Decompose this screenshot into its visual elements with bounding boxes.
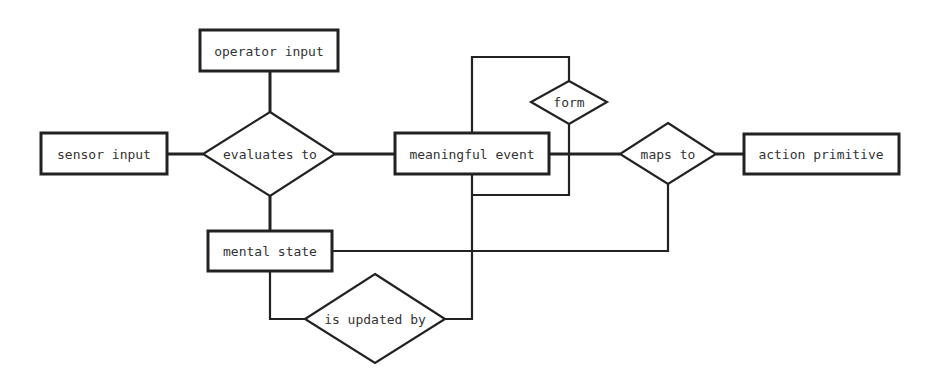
entity-label: mental state: [223, 244, 317, 259]
relationship-maps-to: maps to: [620, 123, 716, 184]
edge-meaningful-updated: [445, 174, 472, 319]
entity-mental-state: mental state: [208, 231, 332, 271]
relationship-label: maps to: [641, 147, 696, 162]
relationship-is-updated-by: is updated by: [305, 274, 445, 363]
connectors: [167, 57, 744, 319]
entity-label: sensor input: [57, 147, 151, 162]
entity-label: action primitive: [758, 147, 883, 162]
edge-mental-updated: [270, 271, 305, 319]
relationship-label: evaluates to: [223, 147, 317, 162]
entity-label: operator input: [214, 44, 324, 59]
relationship-label: is updated by: [324, 312, 426, 327]
relationship-evaluates-to: evaluates to: [203, 112, 335, 196]
entity-label: meaningful event: [409, 147, 534, 162]
relationship-label: form: [553, 95, 584, 110]
entity-operator-input: operator input: [200, 30, 338, 71]
relationship-form: form: [531, 81, 607, 124]
entity-sensor-input: sensor input: [41, 133, 167, 174]
entity-action-primitive: action primitive: [744, 134, 899, 174]
er-diagram: operator input sensor input meaningful e…: [0, 0, 941, 384]
entity-meaningful-event: meaningful event: [395, 133, 549, 174]
